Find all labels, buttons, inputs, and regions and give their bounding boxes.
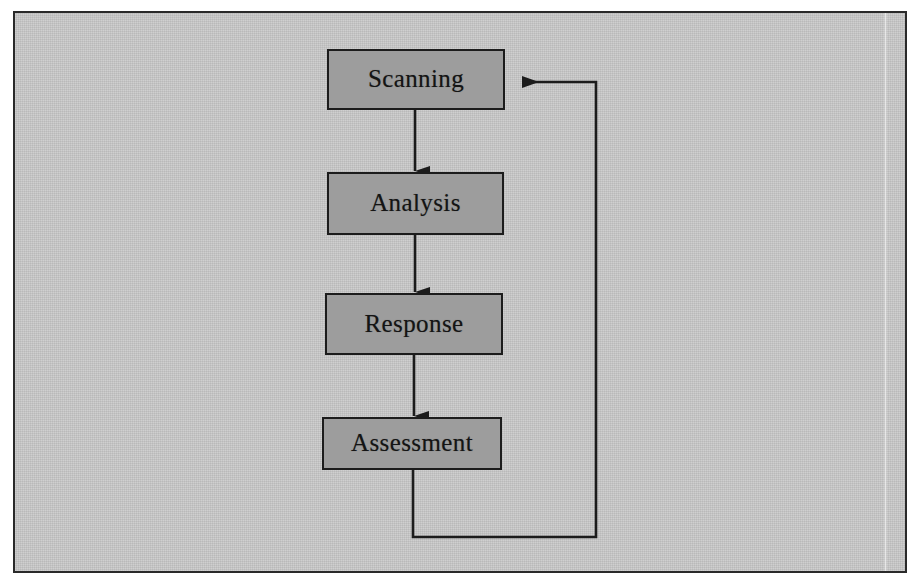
scanner-streak-artifact (884, 13, 887, 573)
node-scanning-label: Scanning (368, 66, 464, 91)
node-scanning[interactable]: Scanning (327, 49, 505, 110)
node-response[interactable]: Response (325, 293, 503, 355)
node-response-label: Response (364, 311, 463, 336)
diagram-page: Scanning Analysis Response Assessment (0, 0, 921, 588)
node-assessment[interactable]: Assessment (322, 417, 502, 470)
node-assessment-label: Assessment (351, 430, 473, 455)
node-analysis[interactable]: Analysis (327, 172, 504, 235)
node-analysis-label: Analysis (370, 190, 461, 215)
